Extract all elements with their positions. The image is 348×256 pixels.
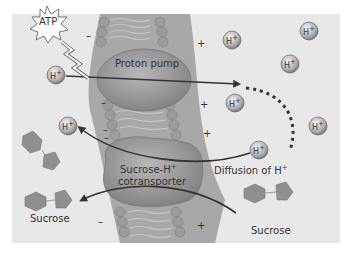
diffusion-dotted-path [246, 88, 293, 150]
proton-pump-label: Proton pump [115, 58, 179, 69]
charge-negative: – [104, 132, 109, 143]
h-ion-label: H+ [50, 69, 62, 81]
h-ion-label: H+ [62, 120, 74, 132]
atp-label: ATP [39, 16, 57, 27]
charge-negative: – [101, 97, 106, 108]
charge-positive: + [197, 220, 205, 231]
h-ion-label: H+ [312, 120, 324, 132]
h-ion-label: H+ [303, 25, 315, 37]
cotransporter-label-line2: cotransporter [118, 176, 186, 187]
charge-negative: – [98, 216, 103, 227]
h-ion-label: H+ [284, 58, 296, 70]
charge-positive: + [203, 128, 211, 139]
sucrose-left-label: Sucrose [30, 213, 70, 224]
charge-positive: + [200, 99, 208, 110]
charge-negative: – [86, 30, 91, 41]
h-ion-label: H+ [229, 97, 241, 109]
h-ion-label: H+ [226, 34, 238, 46]
charge-positive: + [197, 38, 205, 49]
diffusion-label: Diffusion of H+ [214, 164, 288, 176]
h-ion-label: H+ [253, 144, 265, 156]
sucrose-right-label: Sucrose [251, 225, 291, 236]
cotransporter-label-line1: Sucrose-H+ [120, 163, 177, 175]
